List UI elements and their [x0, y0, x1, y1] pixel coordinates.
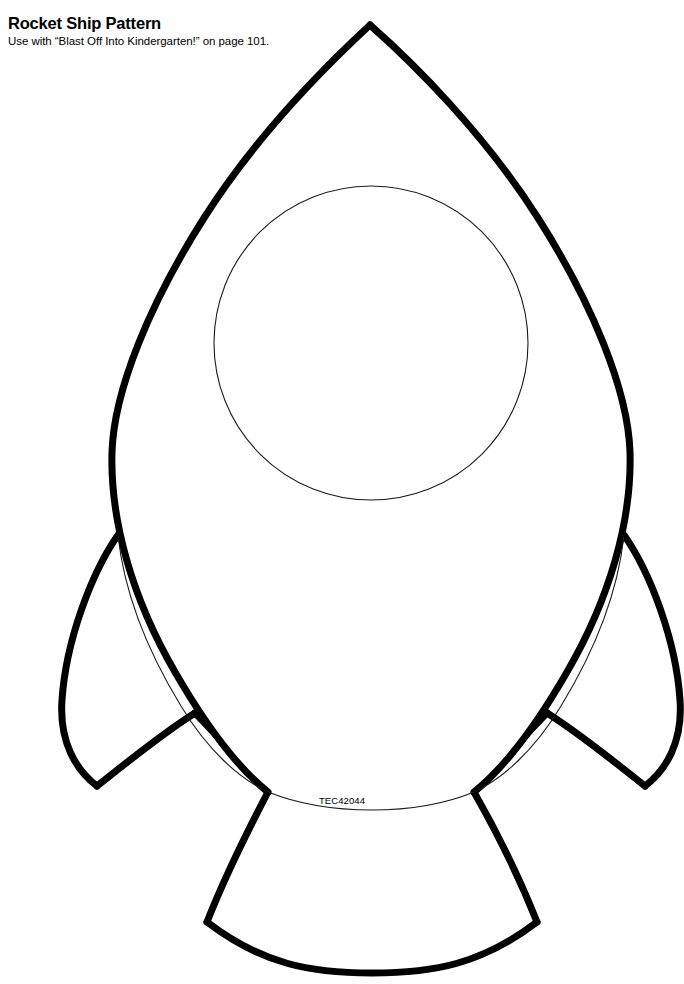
catalog-code-label: TEC42044: [0, 795, 684, 806]
rocket-ship-illustration: [0, 0, 684, 984]
page-header: Rocket Ship Pattern Use with “Blast Off …: [8, 14, 438, 48]
pattern-page: Rocket Ship Pattern Use with “Blast Off …: [0, 0, 684, 984]
page-subtitle: Use with “Blast Off Into Kindergarten!” …: [8, 34, 438, 48]
page-title: Rocket Ship Pattern: [8, 14, 438, 33]
